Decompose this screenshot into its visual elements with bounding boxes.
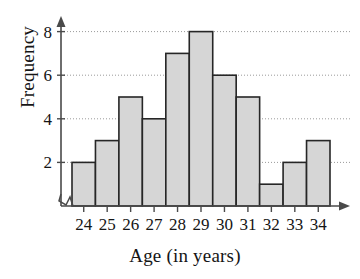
bar-28 xyxy=(166,53,189,206)
x-tick-label-29: 29 xyxy=(193,215,210,234)
x-tick-label-32: 32 xyxy=(263,215,280,234)
bar-31 xyxy=(236,97,259,206)
bar-25 xyxy=(95,141,118,206)
y-axis-arrow-icon xyxy=(57,16,66,27)
x-tick-label-28: 28 xyxy=(169,215,186,234)
x-axis-arrow-icon xyxy=(339,202,350,211)
y-axis-group xyxy=(57,16,66,206)
y-tick-label-4: 4 xyxy=(44,110,53,129)
bar-29 xyxy=(189,32,212,206)
bar-34 xyxy=(307,141,330,206)
x-tick-label-27: 27 xyxy=(146,215,164,234)
bar-32 xyxy=(260,184,283,206)
bars-group xyxy=(72,32,330,206)
y-tick-label-6: 6 xyxy=(44,66,53,85)
x-tick-label-26: 26 xyxy=(122,215,139,234)
x-tick-group: 2425262728293031323334 xyxy=(75,206,327,234)
x-tick-label-25: 25 xyxy=(99,215,116,234)
y-tick-label-8: 8 xyxy=(44,23,53,42)
x-tick-label-34: 34 xyxy=(310,215,328,234)
y-tick-label-2: 2 xyxy=(44,153,53,172)
bar-30 xyxy=(213,75,236,206)
bar-26 xyxy=(119,97,142,206)
x-tick-label-24: 24 xyxy=(75,215,93,234)
bar-33 xyxy=(283,162,306,206)
x-tick-label-33: 33 xyxy=(286,215,303,234)
plot-area: 2468 2425262728293031323334 xyxy=(0,0,360,279)
bar-27 xyxy=(142,119,165,206)
x-tick-label-30: 30 xyxy=(216,215,233,234)
x-tick-label-31: 31 xyxy=(239,215,256,234)
bar-24 xyxy=(72,162,95,206)
histogram-figure: Frequency Age (in years) 2468 2425262728… xyxy=(0,0,360,279)
